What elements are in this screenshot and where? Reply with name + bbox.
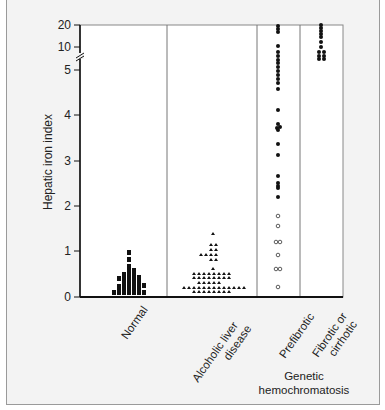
y-tick-labels: 20 10 5 4 3 2 1 0 [58,18,72,304]
tick-4: 4 [64,108,71,122]
y-axis-title: Hepatic iron index [41,114,55,210]
tick-0: 0 [64,290,71,304]
tick-5: 5 [64,63,71,77]
tick-2: 2 [64,199,71,213]
category-alcoholic: Alcoholic liver disease [190,315,254,391]
category-normal: Normal [119,304,150,341]
tick-10: 10 [58,40,72,54]
category-fibrotic: Fibrotic or cirrhotic [310,310,360,366]
tick-1: 1 [64,244,71,258]
plot-area [80,25,343,297]
tick-3: 3 [64,154,71,168]
chart: 20 10 5 4 3 2 1 0 Hepatic iron index [0,0,385,410]
group-label-line2: hemochromatosis [259,384,350,396]
group-label-line1: Genetic [284,370,324,382]
tick-20: 20 [58,18,72,32]
